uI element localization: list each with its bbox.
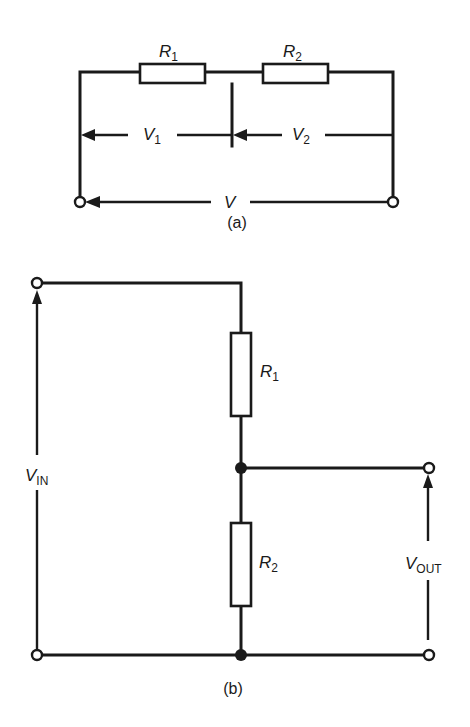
arrowhead-vin-icon bbox=[32, 290, 42, 304]
label-v: V bbox=[224, 193, 237, 212]
junction-dot-bottom bbox=[235, 649, 247, 661]
terminal-a-right bbox=[388, 197, 398, 207]
resistor-r2-b bbox=[231, 523, 251, 606]
label-vin: VIN bbox=[25, 466, 48, 488]
wire-b-top bbox=[42, 283, 241, 333]
junction-dot-middle bbox=[235, 462, 247, 474]
diagram-a: R1 R2 V1 V2 V (a) bbox=[75, 42, 398, 231]
label-v1: V1 bbox=[143, 125, 161, 147]
label-r1-a: R1 bbox=[159, 42, 178, 64]
circuit-diagrams: R1 R2 V1 V2 V (a) bbox=[0, 0, 470, 727]
label-v2: V2 bbox=[292, 125, 310, 147]
arrowhead-v1-icon bbox=[81, 129, 95, 141]
caption-a: (a) bbox=[227, 214, 247, 231]
label-r2-b: R2 bbox=[259, 553, 278, 575]
wire-a-right bbox=[328, 72, 393, 202]
arrowhead-vout-icon bbox=[423, 474, 433, 488]
label-vout: VOUT bbox=[405, 554, 442, 576]
caption-b: (b) bbox=[223, 680, 243, 697]
arrowhead-v2-icon bbox=[233, 129, 247, 141]
terminal-b-bottom-left bbox=[32, 650, 42, 660]
terminal-a-left bbox=[75, 197, 85, 207]
arrowhead-v-icon bbox=[85, 196, 100, 208]
resistor-r1-a bbox=[140, 64, 205, 83]
terminal-b-top-left bbox=[32, 278, 42, 288]
terminal-b-output-top bbox=[424, 463, 434, 473]
terminal-b-output-bottom bbox=[424, 650, 434, 660]
label-r1-b: R1 bbox=[260, 362, 279, 384]
resistor-r1-b bbox=[231, 333, 251, 416]
resistor-r2-a bbox=[263, 64, 328, 83]
diagram-b: R1 R2 VIN VOUT (b) bbox=[25, 278, 442, 697]
label-r2-a: R2 bbox=[283, 42, 302, 64]
